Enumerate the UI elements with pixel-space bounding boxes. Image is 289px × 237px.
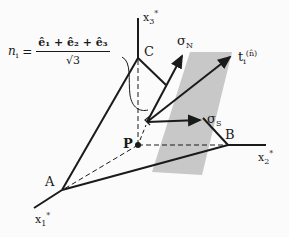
edge-AC xyxy=(62,58,138,190)
edge-CB xyxy=(138,58,166,85)
point-A-label: A xyxy=(45,175,54,188)
x1-axis-label: x1* xyxy=(35,212,50,228)
point-B-label: B xyxy=(225,128,235,141)
point-C-label: C xyxy=(144,45,154,58)
dashed-P-origin xyxy=(140,125,146,140)
point-P-dot xyxy=(135,142,141,148)
point-P-label: P xyxy=(123,137,133,150)
formula-lhs: ni xyxy=(8,44,18,60)
normal-formula: ni = ê₁ + ê₂ + ê₃ √3 xyxy=(8,36,110,67)
x1-axis xyxy=(34,190,62,208)
sigma-n-label: σN xyxy=(177,34,193,50)
formula-numerator: ê₁ + ê₂ + ê₃ xyxy=(36,36,109,52)
formula-fraction: ê₁ + ê₂ + ê₃ √3 xyxy=(36,36,109,67)
traction-label: ti(n̂) xyxy=(238,50,257,66)
sigma-s-label: σS xyxy=(207,112,221,128)
formula-denominator: √3 xyxy=(66,52,80,67)
x3-axis-label: x3* xyxy=(143,10,158,26)
formula-equals: = xyxy=(22,45,32,59)
x2-axis-label: x2* xyxy=(258,150,273,166)
